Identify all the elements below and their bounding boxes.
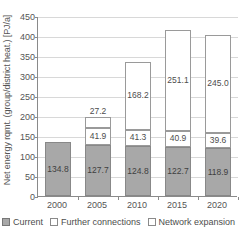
legend-item[interactable]: Current bbox=[2, 217, 43, 227]
x-axis-tick-label: 2005 bbox=[77, 200, 117, 210]
y-axis-tick-label: 350 bbox=[13, 53, 35, 62]
y-axis-tickmark bbox=[35, 57, 38, 58]
x-axis-tick-label: 2010 bbox=[117, 200, 157, 210]
y-axis-tickmark bbox=[35, 117, 38, 118]
y-axis-tick-labels: 050100150200250300350400450 bbox=[13, 0, 35, 230]
bar-segment-value-label: 27.2 bbox=[78, 107, 118, 116]
bar-segment[interactable]: 39.6 bbox=[205, 133, 231, 149]
y-axis-tick-label: 200 bbox=[13, 113, 35, 122]
bar-segment[interactable]: 124.8 bbox=[125, 146, 151, 196]
y-axis-tick-label: 400 bbox=[13, 33, 35, 42]
y-axis-tick-label: 100 bbox=[13, 153, 35, 162]
bar-segment[interactable]: 168.2 bbox=[125, 62, 151, 129]
legend-swatch-1 bbox=[2, 218, 10, 226]
plot-area: 134.827.2127.741.9124.841.3168.2122.740.… bbox=[37, 17, 237, 197]
x-axis-tick-label: 2000 bbox=[37, 200, 77, 210]
y-axis-tick-label: 0 bbox=[13, 193, 35, 202]
bar-segment-value-label: 127.7 bbox=[87, 166, 108, 175]
legend-item[interactable]: Further connections bbox=[50, 217, 141, 227]
y-axis-tickmark bbox=[35, 137, 38, 138]
y-axis-tickmark bbox=[35, 77, 38, 78]
x-axis-tick-label: 2015 bbox=[157, 200, 197, 210]
y-axis-tick-label: 250 bbox=[13, 93, 35, 102]
bar-segment-value-label: 245.0 bbox=[207, 79, 228, 88]
gridline bbox=[38, 17, 238, 18]
bar-segment-value-label: 39.6 bbox=[210, 136, 227, 145]
stacked-bar-chart: Net energy rqmt. (group/district heat.) … bbox=[0, 0, 245, 230]
bar-segment-value-label: 134.8 bbox=[47, 165, 68, 174]
bar-segment[interactable]: 251.1 bbox=[165, 30, 191, 130]
legend-swatch-3 bbox=[148, 218, 156, 226]
bar-segment[interactable]: 41.9 bbox=[85, 128, 111, 145]
y-axis-tickmark bbox=[35, 17, 38, 18]
legend-label: Network expansion bbox=[159, 217, 236, 227]
y-axis-tickmark bbox=[35, 37, 38, 38]
y-axis-tick-label: 150 bbox=[13, 133, 35, 142]
y-axis-title: Net energy rqmt. (group/district heat.) … bbox=[0, 0, 14, 200]
bar-segment[interactable]: 134.8 bbox=[45, 142, 71, 196]
bar-segment[interactable]: 122.7 bbox=[165, 147, 191, 196]
bar-segment-value-label: 41.9 bbox=[90, 132, 107, 141]
bar-segment-value-label: 41.3 bbox=[130, 133, 147, 142]
x-axis-tick-labels: 20002005201020152020 bbox=[37, 199, 237, 213]
bar-segment-value-label: 40.9 bbox=[170, 134, 187, 143]
bar-segment-value-label: 122.7 bbox=[167, 167, 188, 176]
legend-swatch-2 bbox=[50, 218, 58, 226]
y-axis-tick-label: 50 bbox=[13, 173, 35, 182]
bar-segment[interactable] bbox=[85, 117, 111, 128]
y-axis-title-text: Net energy rqmt. (group/district heat.) … bbox=[2, 15, 12, 185]
y-axis-tickmark bbox=[35, 177, 38, 178]
bar-segment[interactable]: 118.9 bbox=[205, 148, 231, 196]
y-axis-tickmark bbox=[35, 97, 38, 98]
y-axis-tick-label: 450 bbox=[13, 13, 35, 22]
bar-segment-value-label: 118.9 bbox=[208, 168, 229, 177]
bar-segment[interactable]: 245.0 bbox=[205, 35, 231, 133]
bar-segment-value-label: 124.8 bbox=[127, 167, 148, 176]
y-axis-tick-label: 300 bbox=[13, 73, 35, 82]
legend-item[interactable]: Network expansion bbox=[148, 217, 236, 227]
legend-label: Further connections bbox=[61, 217, 141, 227]
y-axis-tickmark bbox=[35, 197, 38, 198]
bar-segment-value-label: 251.1 bbox=[167, 76, 188, 85]
chart-legend: CurrentFurther connectionsNetwork expans… bbox=[2, 215, 245, 229]
bar-segment[interactable]: 41.3 bbox=[125, 130, 151, 147]
x-axis-tickmark bbox=[238, 197, 239, 200]
x-axis-tick-label: 2020 bbox=[197, 200, 237, 210]
bar-segment[interactable]: 40.9 bbox=[165, 131, 191, 147]
bar-segment[interactable]: 127.7 bbox=[85, 145, 111, 196]
legend-label: Current bbox=[13, 217, 43, 227]
y-axis-tickmark bbox=[35, 157, 38, 158]
bar-segment-value-label: 168.2 bbox=[127, 91, 148, 100]
